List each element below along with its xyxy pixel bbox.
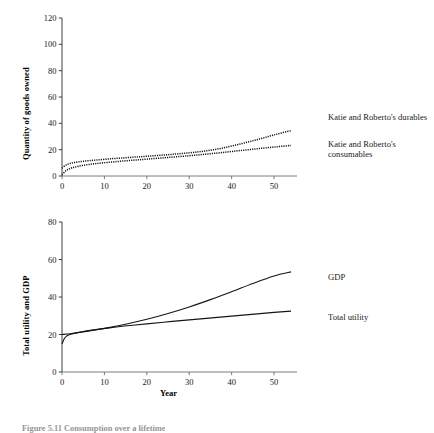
x-axis-label-bottom: Year <box>160 388 177 398</box>
curves-bottom <box>62 272 291 344</box>
svg-text:20: 20 <box>143 181 152 191</box>
svg-text:20: 20 <box>48 145 57 155</box>
svg-text:30: 30 <box>185 377 194 387</box>
legend-label-durables: Katie and Roberto's durables <box>328 112 427 122</box>
svg-text:20: 20 <box>48 330 57 340</box>
chart-panel-utility-gdp: Total utility and GDP 020406080010203040… <box>0 200 434 415</box>
legend-item-total-utility: Total utility <box>328 312 434 322</box>
svg-text:10: 10 <box>100 377 109 387</box>
svg-text:120: 120 <box>44 13 57 23</box>
svg-text:0: 0 <box>52 367 56 377</box>
svg-text:60: 60 <box>48 255 57 265</box>
svg-text:50: 50 <box>270 181 279 191</box>
svg-text:50: 50 <box>270 377 279 387</box>
series-total-utility <box>62 311 291 344</box>
figure-caption: Figure 5.11 Consumption over a lifetime <box>22 424 165 433</box>
svg-text:10: 10 <box>100 181 109 191</box>
series-katie-and-roberto-s-consumables <box>62 145 291 174</box>
axes-bottom: 02040608001020304050 <box>48 217 297 386</box>
legend-item-gdp: GDP <box>328 272 434 282</box>
svg-text:80: 80 <box>48 66 57 76</box>
series-gdp <box>62 272 291 335</box>
plot-area-utility-gdp: 02040608001020304050 <box>0 200 434 415</box>
axes-top: 02040608010012001020304050 <box>44 13 297 190</box>
svg-text:40: 40 <box>227 377 236 387</box>
svg-text:30: 30 <box>185 181 194 191</box>
legend-item-durables: Katie and Roberto's durables <box>328 112 434 122</box>
svg-text:40: 40 <box>48 292 57 302</box>
svg-text:100: 100 <box>44 39 57 49</box>
svg-text:80: 80 <box>48 217 57 227</box>
legend-item-consumables: Katie and Roberto's consumables <box>328 139 434 159</box>
svg-text:0: 0 <box>52 171 56 181</box>
svg-text:40: 40 <box>48 118 57 128</box>
chart-panel-goods-owned: Quantity of goods owned 0204060801001200… <box>0 0 434 200</box>
figure-root: Quantity of goods owned 0204060801001200… <box>0 0 434 433</box>
legend-label-total-utility: Total utility <box>328 312 368 322</box>
plot-area-goods-owned: 02040608010012001020304050 <box>0 0 434 200</box>
svg-text:60: 60 <box>48 92 57 102</box>
svg-text:20: 20 <box>143 377 152 387</box>
svg-text:0: 0 <box>60 181 64 191</box>
svg-text:0: 0 <box>60 377 64 387</box>
svg-text:40: 40 <box>227 181 236 191</box>
curves-top <box>62 131 291 175</box>
legend-label-gdp: GDP <box>328 272 345 282</box>
legend-label-consumables: Katie and Roberto's consumables <box>328 139 396 159</box>
